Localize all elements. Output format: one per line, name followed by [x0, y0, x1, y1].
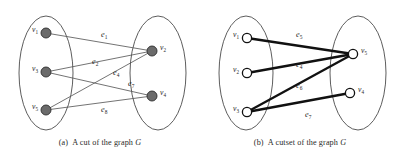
edge-label-e4-b: e4 [296, 60, 303, 70]
right-vertex-set-ellipse-b [330, 16, 386, 130]
caption-a-text: A cut of the graph [72, 138, 133, 147]
edge-e7 [46, 72, 152, 96]
vertex-v1-node-b [242, 33, 251, 42]
diagram-a-svg: v1 v3 v5 v2 v4 e1 e2 e4 e7 e8 [0, 0, 200, 140]
caption-b-tag: (b) [254, 138, 264, 147]
caption-a: (a)A cut of the graph G [0, 138, 200, 147]
vertex-label-v5-b: v5 [361, 46, 367, 56]
edge-label-e1: e1 [101, 30, 108, 40]
vertex-v3-node-b [242, 107, 251, 116]
edge-label-e2: e2 [92, 57, 99, 67]
vertex-v4-node-b [345, 88, 354, 97]
vertex-label-v1-a: v1 [32, 25, 38, 35]
vertex-v5-node-a [41, 105, 51, 115]
vertex-label-v4-a: v4 [160, 88, 166, 98]
vertex-label-v2-b: v2 [233, 65, 239, 75]
vertex-v5-node-b [348, 49, 357, 58]
vertex-label-v5-a: v5 [32, 102, 38, 112]
caption-a-tag: (a) [59, 138, 68, 147]
vertex-label-v3-a: v3 [32, 64, 38, 74]
edge-label-e7-b: e7 [305, 110, 312, 120]
edge-e1 [46, 33, 152, 51]
panel-cutset-of-graph: v1 v2 v3 v5 v4 e5 e4 e6 e7 (b)A cutset o… [200, 0, 400, 164]
edge-e2 [46, 51, 152, 72]
edge-e5 [247, 38, 353, 54]
caption-b: (b)A cutset of the graph G [200, 138, 400, 147]
caption-b-graph-name: G [340, 138, 346, 147]
vertex-label-v1-b: v1 [233, 30, 239, 40]
diagram-b-svg: v1 v2 v3 v5 v4 e5 e4 e6 e7 [200, 0, 400, 140]
vertex-v1-node-a [41, 28, 51, 38]
caption-b-text: A cutset of the graph [268, 138, 338, 147]
edge-e4 [46, 51, 152, 110]
panel-cut-of-graph: v1 v3 v5 v2 v4 e1 e2 e4 e7 e8 (a)A cut o… [0, 0, 200, 164]
vertex-label-v2-a: v2 [160, 43, 166, 53]
right-vertex-set-ellipse-a [130, 16, 186, 130]
vertex-v4-node-a [147, 91, 157, 101]
edge-label-e8: e8 [101, 105, 108, 115]
caption-a-graph-name: G [135, 138, 141, 147]
edge-label-e5: e5 [296, 30, 303, 40]
figure-container: v1 v3 v5 v2 v4 e1 e2 e4 e7 e8 (a)A cut o… [0, 0, 400, 164]
vertex-label-v3-b: v3 [233, 104, 239, 114]
vertex-v2-node-a [147, 46, 157, 56]
vertex-v2-node-b [242, 68, 251, 77]
vertex-v3-node-a [41, 67, 51, 77]
edge-label-e7: e7 [128, 79, 135, 89]
vertex-label-v4-b: v4 [358, 85, 364, 95]
